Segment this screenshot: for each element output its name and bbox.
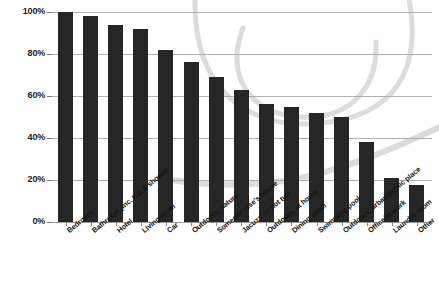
y-tick-label: 60% <box>1 90 45 100</box>
bar <box>133 29 148 222</box>
bar <box>158 50 173 222</box>
y-tick-label: 80% <box>1 48 45 58</box>
bar <box>108 25 123 222</box>
y-tick-label: 20% <box>1 174 45 184</box>
bar <box>83 16 98 222</box>
bar-chart: 100% 80% 60% 40% 20% 0% BedroomBathroom … <box>0 0 439 306</box>
bar <box>234 90 249 222</box>
bar <box>334 117 349 222</box>
bar <box>209 77 224 222</box>
y-tick-label: 0% <box>1 216 45 226</box>
bar <box>359 142 374 222</box>
bar-series <box>52 12 432 222</box>
y-tick-label: 40% <box>1 132 45 142</box>
x-axis-line <box>52 222 432 223</box>
bar <box>58 12 73 222</box>
bar <box>384 178 399 222</box>
y-tick-label: 100% <box>1 6 45 16</box>
bar <box>409 185 424 222</box>
bar <box>259 104 274 222</box>
y-tick-mark <box>47 222 52 223</box>
bar <box>284 107 299 223</box>
bar <box>184 62 199 222</box>
bar <box>309 113 324 222</box>
